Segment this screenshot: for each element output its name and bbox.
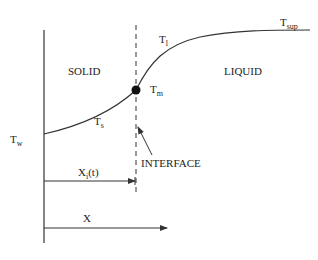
solid-label: SOLID: [68, 65, 100, 77]
interface-pointer-arrow: [138, 127, 152, 155]
solid-temp-label: Ts: [94, 115, 104, 130]
temperature-profile-solid: [44, 90, 136, 134]
x-axis-label: X: [83, 212, 91, 224]
melting-temp-label: Tm: [150, 83, 164, 98]
wall-temp-label: Tw: [10, 133, 23, 148]
liquid-temp-label: Tl: [159, 33, 169, 48]
interface-point: [132, 86, 141, 95]
interface-position-label: Xi(t): [78, 166, 99, 181]
liquid-label: LIQUID: [224, 65, 262, 77]
phase-change-diagram: SOLID LIQUID Tw Ts Tl Tm Tsup INTERFACE …: [0, 0, 318, 260]
interface-label: INTERFACE: [141, 157, 201, 169]
superheat-temp-label: Tsup: [280, 16, 298, 31]
